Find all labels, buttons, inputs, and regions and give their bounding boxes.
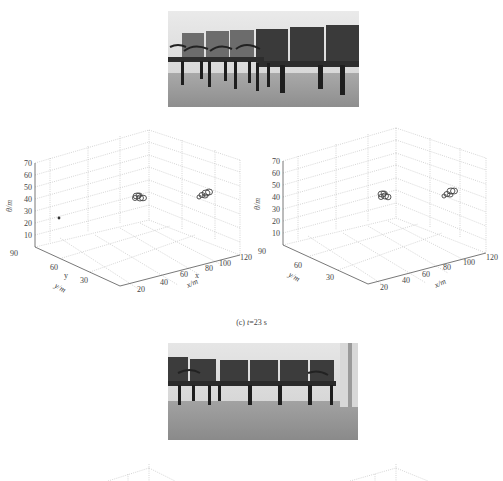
svg-text:50: 50 [24,183,32,192]
scatter-plot-3d-left-partial [0,462,260,481]
svg-text:30: 30 [80,276,88,285]
svg-text:10: 10 [24,231,32,240]
chairs-photo-bottom [168,343,358,440]
data-point-single [58,217,61,220]
x-axis-label: x/m [432,277,447,291]
svg-text:90: 90 [258,247,266,256]
svg-text:100: 100 [219,259,231,268]
svg-text:120: 120 [486,253,498,262]
svg-text:20: 20 [272,217,280,226]
data-cluster-a [133,193,147,201]
data-cluster-a [378,191,391,200]
svg-text:40: 40 [272,193,280,202]
figure-caption: (c) t=23 s [0,318,503,327]
svg-text:30: 30 [24,207,32,216]
svg-text:40: 40 [160,278,168,287]
scatter-plot-3d-right: 70 60 50 40 30 20 10 θ/m 90 60 30 y/m 20… [250,120,503,300]
z-axis-label: θ/m [5,200,14,212]
y-tick-labels: 90 60 30 [10,249,88,285]
svg-text:100: 100 [463,258,475,267]
svg-text:90: 90 [10,249,18,258]
svg-text:20: 20 [24,219,32,228]
svg-text:60: 60 [294,261,302,270]
svg-text:60: 60 [24,171,32,180]
chairs-photo-top [168,11,359,107]
svg-text:70: 70 [272,157,280,166]
svg-text:30: 30 [326,273,334,282]
svg-text:10: 10 [272,229,280,238]
svg-text:60: 60 [422,270,430,279]
svg-text:20: 20 [137,285,145,294]
z-axis-label: θ/m [253,198,262,210]
z-tick-labels: 70 60 50 40 30 20 10 [24,159,32,240]
svg-text:80: 80 [205,264,213,273]
scatter-plot-3d-right-partial [250,462,503,481]
svg-text:40: 40 [402,276,410,285]
data-cluster-b [442,188,458,198]
svg-text:50: 50 [272,181,280,190]
scatter-plot-3d-left: 70 60 50 40 30 20 10 θ/m 90 60 30 y y/m … [0,120,260,300]
svg-text:60: 60 [272,169,280,178]
svg-text:40: 40 [24,195,32,204]
svg-text:70: 70 [24,159,32,168]
y-axis-letter: y [64,271,68,280]
y-axis-label: y/m [52,280,68,294]
svg-text:60: 60 [180,270,188,279]
svg-text:60: 60 [50,263,58,272]
data-cluster-b [197,189,213,199]
svg-text:30: 30 [272,205,280,214]
svg-text:20: 20 [380,283,388,292]
z-tick-labels: 70 60 50 40 30 20 10 [272,157,280,238]
svg-text:80: 80 [443,263,451,272]
y-axis-label: y/m [286,269,302,283]
